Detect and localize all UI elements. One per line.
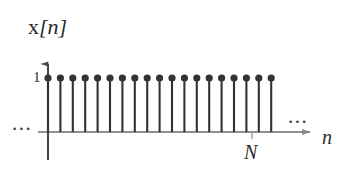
stem-marker	[156, 74, 163, 81]
stem-marker	[94, 74, 101, 81]
stem-marker	[69, 74, 76, 81]
stem-marker	[218, 74, 225, 81]
stem-marker	[168, 74, 175, 81]
stem-marker	[243, 74, 250, 81]
signal-label-roman-part: x	[28, 14, 39, 39]
ellipsis-left: ...	[12, 113, 32, 134]
ellipsis-right: ...	[288, 106, 308, 127]
stem-marker	[181, 74, 188, 81]
stem-marker	[144, 74, 151, 81]
stem-marker	[206, 74, 213, 81]
signal-label-italic-part: [n]	[39, 14, 67, 39]
stem-marker	[57, 74, 64, 81]
stem-marker	[119, 74, 126, 81]
stem-marker	[255, 74, 262, 81]
signal-axis-label: x[n]	[28, 16, 67, 38]
stem-marker	[268, 74, 275, 81]
stem-series	[44, 74, 274, 132]
period-axis-label: N	[244, 142, 257, 162]
stem-marker	[44, 74, 51, 81]
stem-marker	[131, 74, 138, 81]
stem-marker	[106, 74, 113, 81]
discrete-signal-figure: x[n] 1 N n ... ...	[0, 0, 353, 188]
stem-marker	[230, 74, 237, 81]
amplitude-tick-label: 1	[33, 70, 41, 85]
stem-marker	[193, 74, 200, 81]
stem-marker	[82, 74, 89, 81]
index-axis-label: n	[322, 127, 332, 147]
